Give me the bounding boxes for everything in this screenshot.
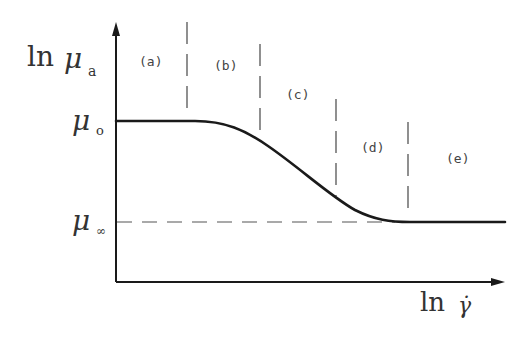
mu0-sub: o <box>96 123 104 138</box>
viscosity-diagram: ln μ a μ o μ ∞ (a) (b) (c) (d) (e) ln γ̇ <box>0 0 529 341</box>
mu-infinity-label: μ <box>72 204 90 237</box>
x-axis-label-gamma-dot: γ̇ <box>458 293 472 318</box>
viscosity-curve <box>116 121 505 222</box>
y-axis-label-ln: ln <box>27 40 54 73</box>
region-label-c: (c) <box>286 87 309 102</box>
y-axis-label-sub: a <box>88 63 96 79</box>
y-axis-label-mu: μ <box>64 42 82 75</box>
region-label-b: (b) <box>214 58 237 73</box>
region-label-a: (a) <box>139 54 162 69</box>
x-axis-label-ln: ln <box>420 287 445 317</box>
y-axis-arrow-icon <box>112 22 120 36</box>
region-label-d: (d) <box>361 140 384 155</box>
mu0-label: μ <box>72 104 90 137</box>
x-axis-arrow-icon <box>491 278 505 286</box>
mu-infinity-sub: ∞ <box>96 224 106 238</box>
region-label-e: (e) <box>446 151 469 166</box>
